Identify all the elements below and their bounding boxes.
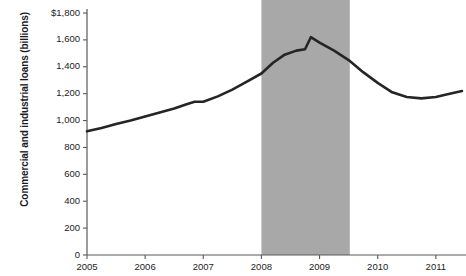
- y-tick-label: 1,400: [0, 60, 80, 71]
- y-tick-label: 0: [0, 249, 80, 260]
- y-tick-label: 200: [0, 222, 80, 233]
- y-tick-label: 800: [0, 141, 80, 152]
- y-tick-label: 1,600: [0, 33, 80, 44]
- x-tick-label: 2007: [173, 261, 233, 272]
- x-tick-label: 2010: [348, 261, 408, 272]
- y-tick-label: 600: [0, 168, 80, 179]
- x-tick-label: 2009: [290, 261, 350, 272]
- chart-container: Commercial and industrial loans (billion…: [0, 0, 466, 276]
- x-tick-label: 2005: [57, 261, 117, 272]
- x-tick-label: 2006: [115, 261, 175, 272]
- y-tick-label: 1,000: [0, 114, 80, 125]
- y-tick-label: 400: [0, 195, 80, 206]
- y-tick-label: $1,800: [0, 7, 80, 18]
- y-tick-label: 1,200: [0, 87, 80, 98]
- recession-band: [261, 0, 349, 255]
- x-tick-label: 2008: [231, 261, 291, 272]
- recession-shading-layer: [261, 0, 349, 255]
- x-tick-label: 2011: [406, 261, 466, 272]
